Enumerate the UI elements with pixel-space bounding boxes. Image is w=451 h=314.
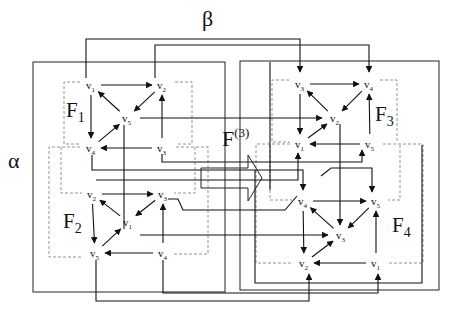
edge-F1-v2-v5 [134,92,154,111]
edge-F4-v5-v3 [348,208,369,228]
beta-connectors [86,39,369,78]
edge-F4-v2-v3 [312,241,333,257]
node-F2-v5: v5 [90,247,100,262]
face-label-F2: F2 [63,209,82,236]
node-F3-v1: v1 [295,138,305,153]
edge-F2-v3-v1 [136,200,155,216]
node-F1-v5: v5 [122,112,132,127]
cross-connectors [92,62,422,283]
edge-F2-v1-v2 [100,200,120,216]
face-label-F1: F1 [66,98,85,125]
face-label-F3: F3 [375,102,394,129]
node-F4-v5: v5 [371,195,381,210]
operator-label: F(3) [222,125,249,151]
edge-F2-v5-v1 [102,229,120,246]
node-F4-v2: v2 [299,257,309,272]
node-F1-v4: v4 [86,142,96,157]
node-F4-v1: v1 [371,257,381,272]
node-F1-v3: v3 [157,142,167,157]
edge-F2-v2-v5 [93,204,95,243]
graph-diagram: v1v2v5v4v3v2v3v1v5v4v3v4v2v1v5v4v5v3v2v1… [0,0,451,314]
node-F1-v1: v1 [86,79,96,94]
node-labels: v1v2v5v4v3v2v3v1v5v4v3v4v2v1v5v4v5v3v2v1 [86,78,381,272]
face-edges [91,84,376,263]
beta-label: β [202,6,213,31]
node-F2-v2: v2 [87,188,97,203]
node-F4-v4: v4 [298,195,308,210]
edge-F1-v5-v1 [98,92,119,111]
edge-F3-v5-v4 [369,94,370,134]
node-F3-v4: v4 [364,78,374,93]
edge-F3-v4-v2 [342,91,362,111]
node-F4-v3: v3 [336,229,346,244]
node-F1-v2: v2 [157,79,167,94]
edge-F3-v2-v3 [307,91,328,111]
alpha-label: α [8,148,20,173]
edge-F3-v1-v2 [308,124,327,138]
edge-F4-v4-v2 [303,211,304,253]
edge-F4-v3-v4 [310,208,333,229]
face-label-F4: F4 [392,213,411,240]
node-F3-v5: v5 [365,138,375,153]
node-F3-v2: v2 [330,112,340,127]
edge-F1-v4-v5 [99,124,120,141]
alpha-frame [33,62,225,292]
bottom-connectors [96,260,378,301]
node-F2-v3: v3 [158,188,168,203]
node-F2-v4: v4 [158,247,168,262]
node-F3-v3: v3 [295,78,305,93]
